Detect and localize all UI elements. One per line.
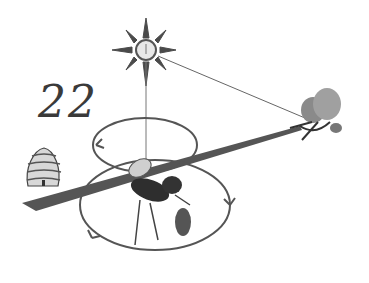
sun-icon xyxy=(112,18,176,86)
waggle-dance-illustration xyxy=(0,0,369,283)
clover-flower-icon xyxy=(290,88,342,140)
sun-flower-line xyxy=(158,56,305,118)
beehive-icon xyxy=(27,148,61,186)
angle-label: 22 xyxy=(38,80,98,124)
